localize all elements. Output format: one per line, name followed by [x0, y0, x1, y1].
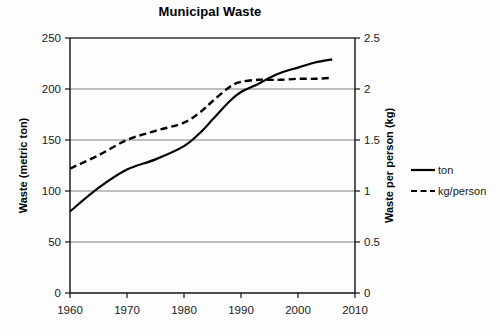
- legend-label-kg-person: kg/person: [438, 185, 486, 197]
- x-tick-label: 2010: [342, 304, 368, 316]
- y2-axis-title: Waste per person (kg): [383, 108, 395, 223]
- x-tick-label: 1970: [114, 304, 140, 316]
- left-tick-label: 200: [42, 83, 61, 95]
- series-paths-group: [70, 59, 332, 211]
- axis-titles-group: Waste (metric ton)Waste per person (kg): [17, 108, 395, 223]
- left-axis-ticks: 050100150200250: [42, 32, 70, 299]
- x-tick-label: 1960: [57, 304, 83, 316]
- left-tick-label: 100: [42, 185, 61, 197]
- y-axis-title: Waste (metric ton): [17, 117, 29, 213]
- left-tick-label: 0: [55, 287, 61, 299]
- chart-container: Municipal Waste 050100150200250 00.511.5…: [0, 0, 500, 336]
- x-tick-label: 1990: [228, 304, 254, 316]
- right-tick-label: 2: [364, 83, 370, 95]
- left-tick-label: 150: [42, 134, 61, 146]
- x-tick-label: 1980: [171, 304, 197, 316]
- chart-legend: tonkg/person: [411, 164, 486, 197]
- x-tick-label: 2000: [285, 304, 311, 316]
- right-tick-label: 0.5: [364, 236, 380, 248]
- right-tick-label: 2.5: [364, 32, 380, 44]
- right-axis-ticks: 00.511.522.5: [355, 32, 380, 299]
- right-tick-label: 0: [364, 287, 370, 299]
- legend-label-ton: ton: [438, 164, 453, 176]
- plot-frame: [70, 38, 355, 293]
- gridlines-group: [70, 38, 355, 242]
- right-tick-label: 1.5: [364, 134, 380, 146]
- right-tick-label: 1: [364, 185, 370, 197]
- left-tick-label: 250: [42, 32, 61, 44]
- series-line-kg-person: [70, 78, 332, 169]
- series-line-ton: [70, 59, 332, 211]
- left-tick-label: 50: [48, 236, 61, 248]
- x-axis-ticks: 196019701980199020002010: [57, 293, 368, 316]
- chart-plot-svg: 050100150200250 00.511.522.5 19601970198…: [0, 0, 500, 336]
